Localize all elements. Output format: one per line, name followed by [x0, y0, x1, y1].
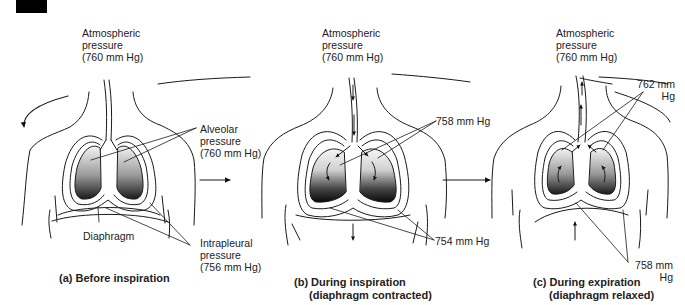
- panel-b-intrapleural-label: 754 mm Hg: [435, 235, 489, 247]
- label-line: Atmospheric: [556, 27, 617, 39]
- panel-b-alveolar-label: 758 mm Hg: [436, 115, 490, 127]
- panel-b-atmospheric-label: Atmospheric pressure (760 mm Hg): [322, 27, 383, 63]
- label-line: pressure: [556, 39, 617, 51]
- panel-b-caption-line2: (diaphragm contracted): [309, 289, 432, 302]
- label-line: Alveolar: [200, 123, 261, 135]
- right-lung-b: [360, 149, 396, 202]
- panel-c-caption-line2: (diaphragm relaxed): [549, 289, 654, 302]
- label-line: pressure: [200, 249, 261, 261]
- label-line: (760 mm Hg): [200, 147, 261, 159]
- panel-a-alveolar-label: Alveolar pressure (760 mm Hg): [200, 123, 261, 159]
- panel-a-body: [22, 80, 195, 238]
- panel-c-alveolar-label: 762 mm Hg: [630, 78, 675, 102]
- label-line: pressure: [200, 135, 261, 147]
- panel-a-atmospheric-label: Atmospheric pressure (760 mm Hg): [82, 27, 143, 63]
- panel-b-caption-line1: (b) During inspiration: [294, 276, 406, 289]
- left-lung-b: [310, 149, 346, 202]
- label-line: Atmospheric: [322, 27, 383, 39]
- label-line: Intrapleural: [200, 237, 261, 249]
- panel-c-caption-line1: (c) During expiration: [533, 276, 641, 289]
- label-line: 762 mm: [630, 78, 675, 90]
- right-lung-a: [117, 146, 143, 199]
- label-line: Atmospheric: [82, 27, 143, 39]
- panel-c-atmospheric-label: Atmospheric pressure (760 mm Hg): [556, 27, 617, 63]
- label-line: (760 mm Hg): [556, 51, 617, 63]
- panel-a-intrapleural-label: Intrapleural pressure (756 mm Hg): [200, 237, 261, 273]
- panel-a-caption: (a) Before inspiration: [59, 272, 170, 285]
- right-lung-c: [589, 148, 616, 194]
- left-lung-c: [547, 148, 574, 194]
- label-line: pressure: [322, 39, 383, 51]
- label-line: (760 mm Hg): [322, 51, 383, 63]
- label-line: pressure: [82, 39, 143, 51]
- left-lung-a: [75, 146, 101, 199]
- label-line: 758 mm: [628, 259, 673, 271]
- respiration-pressure-diagram: Atmospheric pressure (760 mm Hg) Alveola…: [0, 0, 685, 305]
- label-line: (756 mm Hg): [200, 261, 261, 273]
- panel-a-diaphragm-label: Diaphragm: [83, 230, 134, 242]
- label-line: (760 mm Hg): [82, 51, 143, 63]
- label-line: Hg: [630, 90, 675, 102]
